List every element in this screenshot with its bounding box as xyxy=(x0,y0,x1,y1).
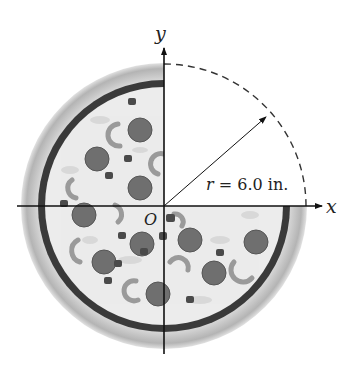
y-axis-label: y xyxy=(154,22,166,44)
origin-label: O xyxy=(144,210,157,229)
x-axis-label: x xyxy=(326,195,337,217)
radius-label: r = 6.0 in. xyxy=(206,175,288,194)
pizza-coordinate-diagram: x y O r = 6.0 in. xyxy=(0,0,355,370)
radius-value: = 6.0 in. xyxy=(214,175,289,194)
